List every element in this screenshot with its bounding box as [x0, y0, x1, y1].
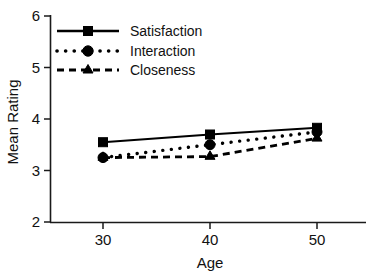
- chart-canvas: 6 5 4 3 2 30 40 50 Age Mean Rating: [0, 0, 375, 274]
- legend-marker-circle-icon: [83, 46, 93, 56]
- legend-item-closeness[interactable]: Closeness: [57, 62, 195, 78]
- y-tick-label-6: 6: [32, 7, 40, 24]
- y-tick-label-2: 2: [32, 213, 40, 230]
- y-tick-label-5: 5: [32, 59, 40, 76]
- legend-item-satisfaction[interactable]: Satisfaction: [57, 23, 202, 39]
- legend-label-satisfaction: Satisfaction: [130, 23, 202, 39]
- x-tick-label-50: 50: [309, 231, 326, 248]
- legend-label-closeness: Closeness: [130, 62, 195, 78]
- data-point-satisfaction-40: [206, 130, 215, 139]
- legend-label-interaction: Interaction: [130, 43, 195, 59]
- y-tick-label-3: 3: [32, 162, 40, 179]
- y-tick-labels: 6 5 4 3 2: [32, 7, 40, 230]
- chart-legend: Satisfaction Interaction Closeness: [57, 23, 202, 78]
- y-tick-label-4: 4: [32, 110, 40, 127]
- x-tick-labels: 30 40 50: [95, 231, 326, 248]
- chart-figure: 6 5 4 3 2 30 40 50 Age Mean Rating: [0, 0, 375, 274]
- data-point-satisfaction-30: [99, 138, 108, 147]
- y-axis-title: Mean Rating: [4, 79, 21, 164]
- legend-marker-square-icon: [84, 27, 93, 36]
- x-tick-label-30: 30: [95, 231, 112, 248]
- data-point-interaction-40: [205, 140, 215, 150]
- axis-group: [50, 15, 366, 223]
- x-axis-title: Age: [197, 254, 224, 271]
- legend-item-interaction[interactable]: Interaction: [57, 43, 195, 59]
- x-tick-label-40: 40: [202, 231, 219, 248]
